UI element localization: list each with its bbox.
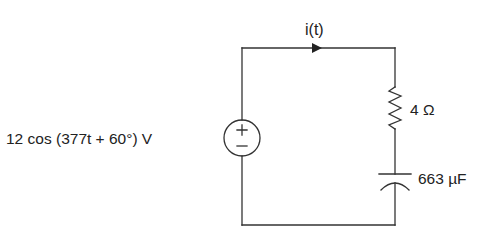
capacitor-label: 663 µF bbox=[418, 171, 467, 187]
resistor-symbol bbox=[389, 87, 401, 129]
current-label: i(t) bbox=[305, 22, 324, 38]
plus-sign-icon bbox=[237, 125, 247, 135]
source-label: 12 cos (377t + 60°) V bbox=[6, 131, 152, 147]
circuit-diagram: 12 cos (377t + 60°) V i(t) 4 Ω 663 µF bbox=[0, 0, 500, 237]
circuit-schematic bbox=[0, 0, 500, 237]
resistor-label: 4 Ω bbox=[410, 102, 435, 118]
current-arrow-icon bbox=[312, 43, 322, 53]
